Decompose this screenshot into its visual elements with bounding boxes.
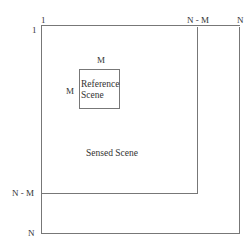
- reference-scene-label: Reference Scene: [81, 79, 120, 101]
- outer-frame-right: [239, 27, 240, 234]
- left-origin-label: 1: [32, 25, 37, 35]
- top-n-minus-m-label: N - M: [187, 15, 209, 25]
- inner-frame-bottom: [41, 193, 198, 194]
- top-origin-label: 1: [41, 15, 46, 25]
- reference-height-label: M: [66, 86, 74, 96]
- outer-frame-bottom: [41, 233, 240, 234]
- sensed-scene-label: Sensed Scene: [86, 148, 138, 158]
- reference-width-label: M: [97, 55, 105, 65]
- outer-frame-left: [41, 25, 42, 234]
- left-n-label: N: [28, 228, 35, 238]
- outer-frame-top: [41, 25, 240, 26]
- left-n-minus-m-label: N - M: [12, 188, 34, 198]
- reference-scene-line1: Reference: [81, 79, 120, 90]
- inner-frame-right: [197, 27, 198, 194]
- top-n-label: N: [237, 15, 244, 25]
- reference-scene-line2: Scene: [81, 90, 120, 101]
